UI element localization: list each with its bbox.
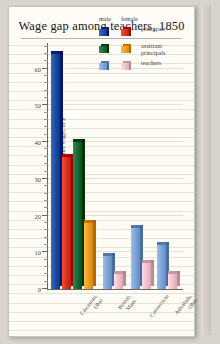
chart-card: Wage gap among teachers, 1850 monthly wa… bbox=[8, 6, 195, 337]
y-tick-label: 0 bbox=[21, 286, 41, 293]
bar-top bbox=[114, 271, 123, 274]
bar-top-corner bbox=[93, 220, 96, 223]
legend-rows: principalsassistantprincipalsteachers bbox=[99, 24, 191, 75]
y-tick-minor bbox=[44, 90, 48, 91]
plot-area: monthly wage, in $ 0102030405060 Cincinn… bbox=[47, 43, 183, 289]
y-tick-minor bbox=[44, 200, 48, 201]
page-edge-shadow bbox=[195, 5, 211, 335]
bar-front bbox=[84, 223, 93, 289]
bar bbox=[51, 54, 60, 289]
bar-top bbox=[142, 260, 151, 263]
y-tick bbox=[42, 215, 48, 216]
legend-swatch-top bbox=[101, 27, 109, 29]
legend-header-female: female bbox=[121, 15, 138, 22]
legend-swatch-front bbox=[99, 46, 107, 53]
paper-rule bbox=[9, 312, 194, 313]
y-tick-minor bbox=[44, 53, 48, 54]
legend-swatch-male bbox=[99, 44, 107, 52]
bar-front bbox=[168, 274, 177, 289]
y-tick-minor bbox=[44, 60, 48, 61]
y-tick-minor bbox=[44, 112, 48, 113]
bar-top-corner bbox=[82, 139, 85, 142]
y-tick-label: 40 bbox=[21, 139, 41, 146]
legend-swatch-top bbox=[101, 44, 109, 46]
y-tick-minor bbox=[44, 237, 48, 238]
x-axis-line bbox=[47, 289, 183, 290]
bar-top bbox=[51, 51, 60, 54]
y-tick bbox=[42, 288, 48, 289]
bar-top bbox=[157, 242, 166, 245]
bar-front bbox=[62, 157, 71, 289]
y-tick-minor bbox=[44, 97, 48, 98]
y-tick bbox=[42, 251, 48, 252]
y-tick-minor bbox=[44, 207, 48, 208]
bar-top bbox=[84, 220, 93, 223]
y-tick-label: 30 bbox=[21, 176, 41, 183]
y-tick-minor bbox=[44, 171, 48, 172]
chart-page: Wage gap among teachers, 1850 monthly wa… bbox=[0, 0, 220, 344]
y-tick bbox=[42, 141, 48, 142]
legend-row: assistantprincipals bbox=[99, 41, 191, 58]
legend-row: teachers bbox=[99, 58, 191, 75]
y-tick-minor bbox=[44, 156, 48, 157]
y-tick-label: 50 bbox=[21, 102, 41, 109]
y-tick-minor bbox=[44, 163, 48, 164]
bar-top-corner bbox=[166, 242, 169, 245]
y-tick-label: 60 bbox=[21, 66, 41, 73]
bar bbox=[114, 274, 123, 289]
paper-rule bbox=[9, 321, 194, 322]
bar-side bbox=[93, 220, 96, 286]
y-tick bbox=[42, 178, 48, 179]
bar-front bbox=[103, 256, 112, 289]
bar bbox=[73, 142, 82, 289]
y-tick-minor bbox=[44, 82, 48, 83]
bar-front bbox=[114, 274, 123, 289]
y-tick-minor bbox=[44, 75, 48, 76]
y-tick-minor bbox=[44, 193, 48, 194]
y-tick-minor bbox=[44, 185, 48, 186]
bar-front bbox=[142, 263, 151, 289]
y-tick-label: 20 bbox=[21, 213, 41, 220]
legend-swatch-top bbox=[123, 61, 131, 63]
bar-front bbox=[131, 228, 140, 289]
legend-swatch-front bbox=[121, 29, 129, 36]
bar-front bbox=[157, 245, 166, 289]
bar-top-corner bbox=[112, 253, 115, 256]
y-tick-minor bbox=[44, 148, 48, 149]
paper-rule bbox=[9, 330, 194, 331]
y-tick-minor bbox=[44, 259, 48, 260]
bar-top-corner bbox=[123, 271, 126, 274]
gridline bbox=[47, 104, 183, 105]
bar-side bbox=[151, 260, 154, 286]
y-tick-minor bbox=[44, 273, 48, 274]
y-tick-minor bbox=[44, 126, 48, 127]
legend-swatch-front bbox=[121, 63, 129, 70]
bar-front bbox=[51, 54, 60, 289]
bar bbox=[157, 245, 166, 289]
legend-swatch-female bbox=[121, 27, 129, 35]
bar-top-corner bbox=[177, 271, 180, 274]
bar-top bbox=[73, 139, 82, 142]
legend-swatch-top bbox=[123, 27, 131, 29]
y-tick bbox=[42, 104, 48, 105]
bar bbox=[142, 263, 151, 289]
bar-top bbox=[103, 253, 112, 256]
bar bbox=[62, 157, 71, 289]
legend-swatch-female bbox=[121, 44, 129, 52]
bar-top bbox=[62, 154, 71, 157]
gridline bbox=[47, 141, 183, 142]
bar-top bbox=[168, 271, 177, 274]
y-tick-minor bbox=[44, 134, 48, 135]
y-tick-minor bbox=[44, 266, 48, 267]
bar-top-corner bbox=[140, 225, 143, 228]
y-tick-minor bbox=[44, 119, 48, 120]
y-tick-minor bbox=[44, 244, 48, 245]
y-tick-minor bbox=[44, 229, 48, 230]
legend-swatch-female bbox=[121, 61, 129, 69]
y-tick-label: 10 bbox=[21, 249, 41, 256]
legend: male female principalsassistantprincipal… bbox=[99, 15, 191, 75]
legend-swatch-front bbox=[99, 29, 107, 36]
legend-headers: male female bbox=[99, 15, 191, 24]
legend-swatch-top bbox=[101, 61, 109, 63]
y-tick bbox=[42, 68, 48, 69]
